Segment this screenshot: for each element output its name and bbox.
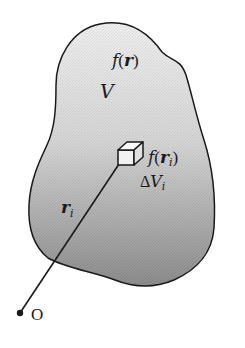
region-label: V	[100, 80, 116, 102]
element-volume-label: ΔVi	[140, 172, 165, 193]
origin-label: O	[31, 305, 43, 324]
cube-front-face	[118, 150, 134, 165]
element-field-label: f(ri)	[146, 147, 178, 169]
origin-point	[17, 310, 23, 316]
volume-integral-diagram: f(r) V f(ri) ΔVi ri O	[0, 0, 245, 348]
field-label: f(r)	[110, 50, 139, 70]
